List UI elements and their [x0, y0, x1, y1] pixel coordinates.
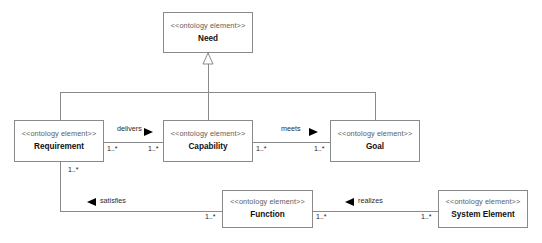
- stereotype-label: <<ontology element>>: [22, 129, 97, 138]
- stereotype-label: <<ontology element>>: [171, 129, 246, 138]
- stereotype-label: <<ontology element>>: [230, 197, 305, 206]
- arrowhead-meets-icon: [309, 128, 318, 136]
- class-node-capability[interactable]: <<ontology element>> Capability: [163, 120, 253, 162]
- generalization-hollow-triangle-icon: [203, 53, 213, 64]
- class-node-need[interactable]: <<ontology element>> Need: [163, 12, 253, 53]
- arrowhead-realizes-icon: [345, 198, 354, 206]
- class-name-label: Goal: [366, 142, 384, 152]
- class-node-function[interactable]: <<ontology element>> Function: [222, 190, 313, 228]
- class-name-label: Function: [250, 210, 285, 220]
- multiplicity-function-right: 1..*: [316, 213, 327, 220]
- association-label-satisfies: satisfies: [100, 196, 126, 205]
- association-line-satisfies: [60, 162, 222, 211]
- class-node-requirement[interactable]: <<ontology element>> Requirement: [14, 120, 104, 162]
- class-name-label: Capability: [188, 142, 227, 152]
- class-name-label: Need: [198, 34, 218, 44]
- class-name-label: System Element: [451, 210, 514, 220]
- class-node-system-element[interactable]: <<ontology element>> System Element: [438, 190, 528, 228]
- arrowhead-satisfies-icon: [87, 198, 96, 206]
- stereotype-label: <<ontology element>>: [446, 197, 521, 206]
- arrowhead-delivers-icon: [144, 128, 153, 136]
- multiplicity-capability-left: 1..*: [148, 145, 159, 152]
- multiplicity-requirement-bottom: 1..*: [68, 166, 79, 173]
- association-label-realizes: realizes: [358, 196, 383, 205]
- class-node-goal[interactable]: <<ontology element>> Goal: [330, 120, 420, 162]
- multiplicity-goal-left: 1..*: [314, 145, 325, 152]
- class-name-label: Requirement: [34, 142, 84, 152]
- multiplicity-requirement-right: 1..*: [107, 145, 118, 152]
- stereotype-label: <<ontology element>>: [338, 129, 413, 138]
- association-label-meets: meets: [281, 124, 301, 133]
- multiplicity-function-left: 1..*: [205, 213, 216, 220]
- multiplicity-system-element-left: 1..*: [421, 213, 432, 220]
- association-label-delivers: delivers: [117, 124, 142, 133]
- multiplicity-capability-right: 1..*: [256, 145, 267, 152]
- uml-class-diagram: Capability --> Goal --> Requirement (elb…: [0, 0, 542, 243]
- stereotype-label: <<ontology element>>: [171, 21, 246, 30]
